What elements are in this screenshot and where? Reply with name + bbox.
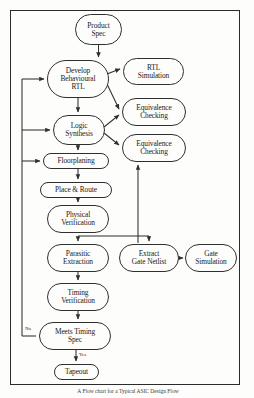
node-product-spec[interactable]: Product Spec bbox=[75, 14, 122, 45]
node-label-line: Floorplaning bbox=[46, 157, 106, 165]
node-timing-verification[interactable]: Timing Verification bbox=[47, 283, 109, 311]
edge-label-no: No bbox=[25, 326, 31, 331]
node-label-line: Verification bbox=[50, 297, 106, 305]
node-tapeout[interactable]: Tapeout bbox=[54, 364, 99, 380]
figure-page: Product Spec Develop Behavioural RTL RTL… bbox=[0, 0, 254, 398]
node-place-and-route[interactable]: Place & Route bbox=[40, 182, 112, 198]
node-physical-verification[interactable]: Physical Verification bbox=[47, 205, 109, 233]
edge-label-yes: Yes bbox=[79, 352, 86, 357]
node-label-line: Spec bbox=[78, 30, 119, 38]
node-label-line: Tapeout bbox=[57, 368, 96, 376]
node-label-line: Spec bbox=[42, 336, 108, 344]
node-floorplaning[interactable]: Floorplaning bbox=[43, 153, 109, 169]
figure-caption: A Flow chart for a Typical ASIC Design F… bbox=[12, 388, 244, 394]
node-gate-simulation[interactable]: Gate Simulation bbox=[185, 244, 237, 272]
node-label-line: Checking bbox=[125, 112, 183, 120]
node-equivalence-checking-2[interactable]: Equivalence Checking bbox=[122, 134, 186, 162]
node-label-line: Synthesis bbox=[56, 130, 102, 138]
node-label-line: Place & Route bbox=[43, 186, 109, 194]
flowchart-canvas bbox=[0, 0, 254, 398]
node-develop-behavioural-rtl[interactable]: Develop Behavioural RTL bbox=[47, 60, 109, 98]
node-label-line: Checking bbox=[125, 148, 183, 156]
node-label-line: RTL bbox=[50, 83, 106, 91]
node-label-line: Simulation bbox=[188, 258, 234, 266]
node-extract-gate-netlist[interactable]: Extract Gate Netlist bbox=[119, 244, 179, 272]
edge-rtl-to-equivalence-checking-1 bbox=[107, 84, 119, 109]
node-label-line: Verification bbox=[50, 219, 106, 227]
node-label-line: Extraction bbox=[50, 258, 106, 266]
node-logic-synthesis[interactable]: Logic Synthesis bbox=[53, 115, 105, 145]
edge-synthesis-to-equivalence-checking-2 bbox=[104, 133, 119, 145]
node-label-line: Simulation bbox=[126, 72, 181, 80]
edge-synthesis-to-equivalence-checking-1 bbox=[104, 115, 119, 127]
node-equivalence-checking-1[interactable]: Equivalence Checking bbox=[122, 98, 186, 126]
edge-rtl-to-rtl-simulation bbox=[107, 69, 120, 74]
node-meets-timing-spec[interactable]: Meets Timing Spec bbox=[39, 322, 111, 350]
node-parasitic-extraction[interactable]: Parasitic Extraction bbox=[47, 244, 109, 272]
node-rtl-simulation[interactable]: RTL Simulation bbox=[123, 58, 184, 85]
node-label-line: Gate Netlist bbox=[122, 258, 176, 266]
